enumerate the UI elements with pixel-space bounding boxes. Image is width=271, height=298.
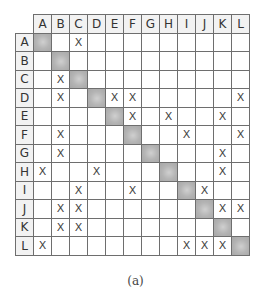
dependency-mark: X <box>214 144 232 163</box>
dependency-mark: X <box>124 107 142 126</box>
empty-cell <box>88 181 106 200</box>
empty-cell <box>88 70 106 89</box>
empty-cell <box>214 33 232 52</box>
row-header-i: I <box>16 181 34 200</box>
empty-cell <box>88 144 106 163</box>
diagonal-cell <box>88 89 106 108</box>
empty-cell <box>178 107 196 126</box>
dependency-mark: X <box>214 107 232 126</box>
matrix-row-g: GXX <box>16 144 250 163</box>
empty-cell <box>88 237 106 256</box>
dependency-mark: X <box>232 89 250 108</box>
empty-cell <box>52 33 70 52</box>
matrix-row-a: AX <box>16 33 250 52</box>
dependency-mark: X <box>52 70 70 89</box>
empty-cell <box>106 163 124 182</box>
empty-cell <box>232 107 250 126</box>
empty-cell <box>106 70 124 89</box>
empty-cell <box>34 70 52 89</box>
empty-cell <box>196 163 214 182</box>
empty-cell <box>34 107 52 126</box>
empty-cell <box>196 89 214 108</box>
empty-cell <box>160 181 178 200</box>
empty-cell <box>214 52 232 71</box>
figure-caption: (a) <box>0 274 271 288</box>
empty-cell <box>88 107 106 126</box>
empty-cell <box>52 107 70 126</box>
row-header-h: H <box>16 163 34 182</box>
empty-cell <box>70 144 88 163</box>
dependency-mark: X <box>232 200 250 219</box>
empty-cell <box>178 218 196 237</box>
diagonal-cell <box>34 33 52 52</box>
empty-cell <box>214 70 232 89</box>
diagonal-cell <box>214 218 232 237</box>
empty-cell <box>34 200 52 219</box>
empty-cell <box>196 33 214 52</box>
empty-cell <box>142 218 160 237</box>
row-header-g: G <box>16 144 34 163</box>
empty-cell <box>52 181 70 200</box>
diagonal-cell <box>196 200 214 219</box>
empty-cell <box>214 126 232 145</box>
empty-cell <box>88 52 106 71</box>
diagonal-cell <box>124 126 142 145</box>
empty-cell <box>70 163 88 182</box>
column-header-k: K <box>214 15 232 34</box>
dependency-mark: X <box>160 107 178 126</box>
empty-cell <box>178 144 196 163</box>
empty-cell <box>196 126 214 145</box>
empty-cell <box>160 237 178 256</box>
empty-cell <box>34 89 52 108</box>
dependency-mark: X <box>34 163 52 182</box>
empty-cell <box>34 218 52 237</box>
diagonal-cell <box>106 107 124 126</box>
empty-cell <box>160 144 178 163</box>
dependency-mark: X <box>196 237 214 256</box>
empty-cell <box>160 70 178 89</box>
dependency-mark: X <box>124 89 142 108</box>
dependency-mark: X <box>70 200 88 219</box>
empty-cell <box>106 33 124 52</box>
row-header-l: L <box>16 237 34 256</box>
empty-cell <box>34 126 52 145</box>
dependency-mark: X <box>70 33 88 52</box>
diagonal-cell <box>52 52 70 71</box>
empty-cell <box>232 144 250 163</box>
empty-cell <box>142 126 160 145</box>
matrix-row-i: IXXX <box>16 181 250 200</box>
empty-cell <box>160 52 178 71</box>
empty-cell <box>106 181 124 200</box>
empty-cell <box>196 107 214 126</box>
empty-cell <box>142 33 160 52</box>
column-header-j: J <box>196 15 214 34</box>
empty-cell <box>142 200 160 219</box>
empty-cell <box>124 237 142 256</box>
empty-cell <box>70 89 88 108</box>
matrix-row-j: JXXXX <box>16 200 250 219</box>
matrix-row-e: EXXX <box>16 107 250 126</box>
empty-cell <box>178 70 196 89</box>
empty-cell <box>160 200 178 219</box>
dependency-mark: X <box>52 89 70 108</box>
empty-cell <box>196 52 214 71</box>
empty-cell <box>34 52 52 71</box>
empty-cell <box>178 33 196 52</box>
empty-cell <box>214 181 232 200</box>
matrix-row-f: FXXX <box>16 126 250 145</box>
matrix-row-h: HXXX <box>16 163 250 182</box>
empty-cell <box>124 200 142 219</box>
row-header-k: K <box>16 218 34 237</box>
column-header-l: L <box>232 15 250 34</box>
diagonal-cell <box>160 163 178 182</box>
row-header-j: J <box>16 200 34 219</box>
dependency-mark: X <box>70 181 88 200</box>
diagonal-cell <box>142 144 160 163</box>
empty-cell <box>142 107 160 126</box>
empty-cell <box>52 163 70 182</box>
empty-cell <box>142 237 160 256</box>
row-header-e: E <box>16 107 34 126</box>
matrix-row-d: DXXXX <box>16 89 250 108</box>
row-header-d: D <box>16 89 34 108</box>
dependency-mark: X <box>214 163 232 182</box>
